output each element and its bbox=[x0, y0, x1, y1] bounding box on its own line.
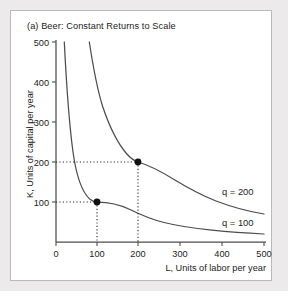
x-tick-label-0: 0 bbox=[53, 249, 58, 259]
curve-label-q100: q = 100 bbox=[222, 217, 254, 228]
isoquant-curves bbox=[64, 42, 264, 234]
y-tick-label-200: 200 bbox=[34, 158, 49, 168]
data-point-q200[interactable] bbox=[135, 159, 142, 166]
x-tick-label-300: 300 bbox=[172, 249, 187, 259]
data-point-q100[interactable] bbox=[94, 199, 101, 206]
y-axis-tick-labels: 500 400 300 200 100 bbox=[34, 38, 49, 208]
x-axis-tick-labels: 0 100 200 300 400 500 bbox=[53, 249, 271, 259]
figure-panel: (a) Beer: Constant Returns to Scale 500 … bbox=[10, 10, 272, 281]
y-tick-label-500: 500 bbox=[34, 38, 49, 48]
y-axis-title: K, Units of capital per year bbox=[25, 90, 35, 198]
x-tick-label-200: 200 bbox=[130, 249, 145, 259]
x-tick-label-500: 500 bbox=[256, 249, 271, 259]
y-tick-label-100: 100 bbox=[34, 198, 49, 208]
chart-axes bbox=[56, 40, 266, 242]
x-tick-label-100: 100 bbox=[89, 249, 104, 259]
data-point-markers bbox=[94, 159, 142, 206]
x-tick-label-400: 400 bbox=[214, 249, 229, 259]
y-tick-label-300: 300 bbox=[34, 118, 49, 128]
isoquant-chart: 500 400 300 200 100 0 100 200 300 400 50… bbox=[0, 0, 288, 291]
y-tick-label-400: 400 bbox=[34, 78, 49, 88]
curve-label-q200: q = 200 bbox=[222, 186, 254, 197]
x-axis-title: L, Units of labor per year bbox=[165, 263, 266, 273]
